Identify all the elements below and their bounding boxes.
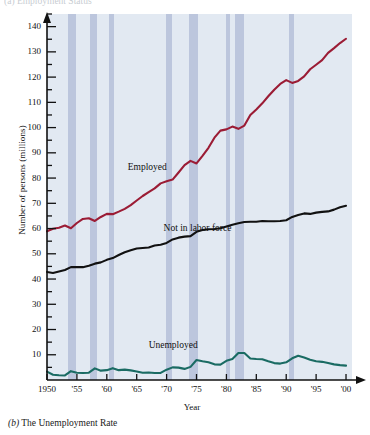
plot-area: EmployedNot in labor forceUnemployed <box>47 14 352 380</box>
figure-bottom-caption-text: The Unemployment Rate <box>21 418 117 428</box>
y-tick-label: 110 <box>13 98 41 107</box>
series-label: Employed <box>128 162 167 172</box>
y-tick-label: 90 <box>13 148 41 157</box>
y-tick-label: 10 <box>13 350 41 359</box>
x-axis-title-text: Year <box>170 402 201 412</box>
y-tick-label: 50 <box>13 249 41 258</box>
series-line-not-in-labor-force <box>47 206 346 273</box>
y-tick-label: 80 <box>13 174 41 183</box>
y-tick-label: 70 <box>13 199 41 208</box>
y-tick-label: 30 <box>13 300 41 309</box>
figure-top-caption: (a) Employment Status <box>4 0 204 8</box>
figure-employment-status: (a) Employment Status Number of persons … <box>0 0 370 435</box>
y-tick-label: 20 <box>13 325 41 334</box>
x-tick-label: '00 <box>328 385 364 394</box>
series-lines <box>47 14 352 380</box>
figure-bottom-caption-prefix: (b) <box>8 418 19 428</box>
y-tick-label: 100 <box>13 123 41 132</box>
y-tick-label: 120 <box>13 73 41 82</box>
series-line-employed <box>47 39 346 232</box>
y-tick-label: 40 <box>13 275 41 284</box>
series-label: Unemployed <box>149 340 198 350</box>
series-line-unemployed <box>47 353 346 375</box>
figure-bottom-caption: (b) The Unemployment Rate <box>8 418 117 428</box>
y-tick-label: 60 <box>13 224 41 233</box>
x-axis-arrow-icon <box>356 376 366 384</box>
y-tick-label: 130 <box>13 47 41 56</box>
y-tick-label: 140 <box>13 22 41 31</box>
series-label: Not in labor force <box>164 223 232 233</box>
x-axis-title: Year <box>0 402 370 412</box>
